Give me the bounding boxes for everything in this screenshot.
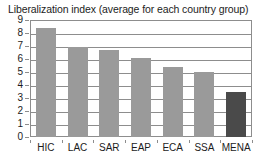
y-tick-label: 5 — [17, 67, 23, 77]
x-tick-label-sar: SAR — [99, 142, 120, 154]
bar-lac — [68, 47, 88, 137]
y-tick-label: 8 — [17, 28, 23, 38]
y-tick-label: 0 — [17, 132, 23, 142]
x-tick-mark — [30, 140, 31, 143]
y-tick-label: 4 — [17, 80, 23, 90]
x-tick-mark — [93, 140, 94, 143]
y-tick-mark — [25, 85, 29, 86]
x-tick-mark — [62, 140, 63, 143]
x-tick-mark — [157, 140, 158, 143]
x-tick-mark — [252, 140, 253, 143]
y-tick-mark — [25, 111, 29, 112]
y-tick-label: 9 — [17, 15, 23, 25]
x-tick-label-lac: LAC — [68, 142, 87, 154]
chart-figure: Liberalization index (average for each c… — [0, 0, 268, 165]
x-tick-label-ssa: SSA — [194, 142, 214, 154]
y-tick-mark — [25, 33, 29, 34]
y-tick-mark — [25, 124, 29, 125]
y-tick-mark — [25, 59, 29, 60]
x-tick-label-eap: EAP — [131, 142, 151, 154]
y-tick-label: 2 — [17, 106, 23, 116]
x-tick-mark — [189, 140, 190, 143]
x-tick-label-eca: ECA — [162, 142, 183, 154]
x-tick-label-hic: HIC — [37, 142, 54, 154]
y-tick-label: 3 — [17, 93, 23, 103]
x-tick-mark — [125, 140, 126, 143]
bar-hic — [36, 28, 56, 137]
y-tick-label: 7 — [17, 41, 23, 51]
y-axis: 0123456789 — [0, 20, 28, 137]
y-tick-mark — [25, 137, 29, 138]
y-tick-mark — [25, 20, 29, 21]
y-tick-mark — [25, 98, 29, 99]
x-tick-mark — [220, 140, 221, 143]
bar-series — [30, 20, 252, 137]
bar-eap — [131, 58, 151, 137]
x-axis: HICLACSAREAPECASSAMENA — [30, 140, 252, 156]
bar-eca — [163, 67, 183, 137]
bar-ssa — [194, 72, 214, 137]
bar-sar — [99, 50, 119, 137]
y-tick-label: 6 — [17, 54, 23, 64]
y-tick-label: 1 — [17, 119, 23, 129]
bar-mena — [226, 92, 246, 137]
y-tick-mark — [25, 46, 29, 47]
y-tick-mark — [25, 72, 29, 73]
x-tick-label-mena: MENA — [222, 142, 251, 154]
chart-title: Liberalization index (average for each c… — [8, 3, 248, 16]
